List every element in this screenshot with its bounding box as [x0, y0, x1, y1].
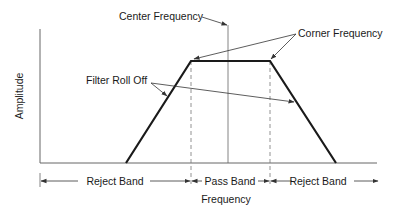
filter-response-diagram: Amplitude Center Frequency Corner Freque…	[0, 0, 396, 217]
corner-frequency-arrow-right	[271, 34, 296, 59]
corner-frequency-label: Corner Frequency	[298, 27, 383, 39]
filter-response-curve	[126, 61, 336, 163]
reject-band-right-label: Reject Band	[289, 175, 346, 187]
y-axis-label: Amplitude	[13, 73, 25, 120]
roll-off-arrow-right	[151, 83, 294, 102]
center-frequency-arrow	[202, 17, 227, 25]
corner-frequency-arrow-left	[194, 34, 296, 59]
filter-roll-off-label: Filter Roll Off	[86, 74, 147, 86]
center-frequency-label: Center Frequency	[119, 10, 204, 22]
pass-band-label: Pass Band	[205, 175, 256, 187]
x-axis-label: Frequency	[201, 193, 251, 205]
reject-band-left-label: Reject Band	[86, 175, 143, 187]
